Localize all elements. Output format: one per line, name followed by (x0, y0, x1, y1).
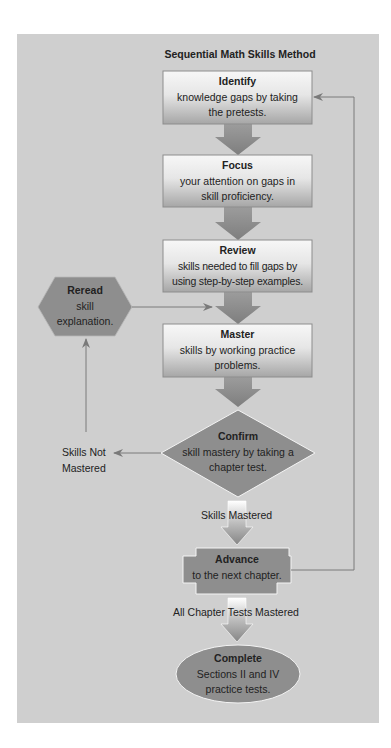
flowchart: Sequential Math Skills Method Identify k… (0, 0, 391, 748)
skills-not-mastered-label: Skills Not Mastered (62, 445, 112, 476)
master-text: skills by working practice problems. (163, 343, 312, 374)
advance-title: Advance (183, 552, 291, 568)
review-title: Review (163, 243, 312, 259)
skills-mastered-label: Skills Mastered (201, 508, 281, 524)
reread-title: Reread (48, 283, 122, 299)
diagram-title: Sequential Math Skills Method (140, 48, 340, 60)
confirm-title: Confirm (178, 429, 298, 445)
arrow-master-confirm (215, 377, 261, 407)
focus-box: Focus your attention on gaps in skill pr… (163, 158, 312, 205)
arrow-review-master (215, 292, 261, 324)
focus-title: Focus (163, 158, 312, 174)
complete-title: Complete (188, 651, 288, 667)
review-text: skills needed to fill gaps by using step… (163, 259, 312, 290)
arrow-focus-review (215, 207, 261, 240)
reread-text: skill explanation. (48, 299, 122, 330)
confirm-text: skill mastery by taking a chapter test. (178, 445, 298, 476)
review-box: Review skills needed to fill gaps by usi… (163, 243, 312, 290)
complete-ellipse: Complete Sections II and IV practice tes… (188, 651, 288, 698)
identify-text: knowledge gaps by taking the pretests. (163, 90, 312, 121)
complete-text: Sections II and IV practice tests. (188, 667, 288, 698)
advance-text: to the next chapter. (183, 568, 291, 584)
identify-title: Identify (163, 74, 312, 90)
advance-shape: Advance to the next chapter. (183, 552, 291, 583)
master-title: Master (163, 327, 312, 343)
all-chapter-tests-mastered-label: All Chapter Tests Mastered (173, 605, 313, 621)
reread-hexagon: Reread skill explanation. (48, 283, 122, 330)
identify-box: Identify knowledge gaps by taking the pr… (163, 74, 312, 121)
master-box: Master skills by working practice proble… (163, 327, 312, 374)
arrow-identify-focus (215, 124, 261, 155)
focus-text: your attention on gaps in skill proficie… (163, 174, 312, 205)
confirm-diamond: Confirm skill mastery by taking a chapte… (178, 429, 298, 476)
